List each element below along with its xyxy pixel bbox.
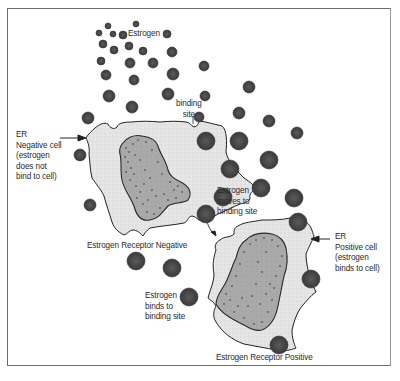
arrow-to-negative-cell xyxy=(60,135,86,141)
estrogen-receptor-diagram xyxy=(0,0,400,381)
label-estrogen-moves: Estrogen moves to binding site xyxy=(217,186,257,218)
label-er-positive-cell: ER Positive cell (estrogen binds to cell… xyxy=(335,232,380,274)
label-estrogen-binds: Estrogen binds to binding site xyxy=(145,291,185,323)
label-estrogen: Estrogen xyxy=(128,29,160,40)
label-er-negative-cell: ER Negative cell (estrogen does not bind… xyxy=(16,130,62,183)
label-estrogen-receptor-positive: Estrogen Receptor Positive xyxy=(216,353,313,364)
label-estrogen-receptor-negative: Estrogen Receptor Negative xyxy=(87,241,187,252)
label-binding-site: binding site xyxy=(176,99,202,120)
er-positive-cell xyxy=(208,218,316,351)
